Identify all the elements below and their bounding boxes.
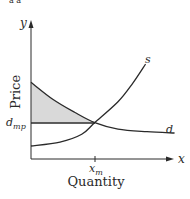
x-axis-symbol: x [178,152,185,166]
y-axis-arrow-icon [29,20,34,28]
supply-demand-diagram: a a y x Price Quantity s d dmp xm [0,0,190,199]
dmp-main: d [6,116,13,129]
svg-text:dmp: dmp [6,116,26,131]
y-axis-label: Price [8,75,23,109]
svg-text:xm: xm [89,162,103,177]
dmp-sub: mp [13,122,26,131]
consumer-surplus-region [31,82,95,122]
y-axis-symbol: y [19,16,27,30]
xm-tick-label: xm [89,162,103,177]
supply-label: s [145,53,151,66]
xm-sub: m [95,168,103,177]
x-axis-arrow-icon [166,157,174,162]
dmp-tick-label: dmp [6,116,26,131]
demand-label: d [166,123,173,136]
header-fragment: a a [9,0,21,5]
